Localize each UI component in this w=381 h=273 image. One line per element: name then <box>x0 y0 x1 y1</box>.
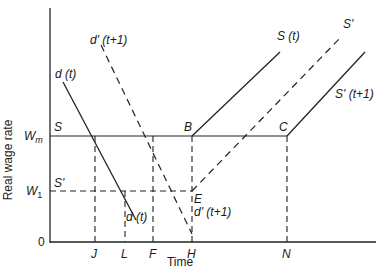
tick-label-l: L <box>121 247 128 261</box>
curve-label-s-prime-t1: S' (t+1) <box>335 87 374 101</box>
tick-label-j: J <box>90 247 98 261</box>
tick-label-f: F <box>149 247 157 261</box>
y-axis-title: Real wage rate <box>1 119 15 200</box>
curve-label-d-t-low: d (t) <box>126 210 147 224</box>
labor-market-diagram: Real wage rate Time 0 Wm W1 J L F H N S … <box>0 0 381 273</box>
curve-label-d-prime-t1: d' (t+1) <box>90 33 127 47</box>
point-label-c: C <box>279 120 288 134</box>
origin-label: 0 <box>38 235 45 249</box>
curve-label-s-t: S (t) <box>277 29 300 43</box>
curve-label-s-prime: S' <box>343 17 354 31</box>
supply-curve-t <box>192 52 280 136</box>
curve-label-d-t: d (t) <box>55 67 76 81</box>
wm-label: Wm <box>24 129 43 145</box>
w1-label: W1 <box>26 184 42 200</box>
point-label-s: S <box>54 120 62 134</box>
point-label-b: B <box>184 120 192 134</box>
point-label-s-prime: S' <box>54 176 65 190</box>
demand-curve-t <box>63 82 136 220</box>
demand-curve-t1 <box>101 45 192 234</box>
tick-label-n: N <box>282 247 291 261</box>
curve-label-d-prime-t1-low: d' (t+1) <box>194 205 231 219</box>
tick-label-h: H <box>187 247 196 261</box>
point-label-e: E <box>194 192 203 206</box>
